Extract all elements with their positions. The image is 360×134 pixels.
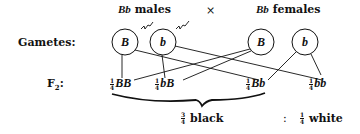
fraction: 14 <box>110 78 114 91</box>
offspring-bB: 14bB <box>155 77 174 91</box>
genotype: Bb <box>251 76 265 90</box>
squiggle-arrow-icon <box>141 22 153 29</box>
fraction-den: 4 <box>309 85 313 91</box>
white-ratio: 14 white <box>300 112 343 125</box>
cross-line <box>311 54 321 75</box>
ratio-separator: : <box>283 113 287 124</box>
fraction: 34 <box>181 112 185 125</box>
male-gamete-b: b <box>153 36 173 48</box>
genotype: bB <box>160 76 174 90</box>
squiggle-arrow-icon <box>176 21 189 29</box>
genotype: bb <box>314 76 326 90</box>
fraction: 14 <box>300 112 304 125</box>
offspring-BB: 14BB <box>110 77 131 91</box>
cross-line <box>162 55 165 78</box>
male-gamete-B: B <box>115 36 135 48</box>
genotype: BB <box>115 76 131 90</box>
cross-line <box>135 50 259 80</box>
males-parent-label: Bb males <box>118 4 171 15</box>
females-label: females <box>273 3 321 16</box>
males-label: males <box>135 3 171 16</box>
offspring-bb: 14bb <box>309 77 326 91</box>
fraction-den: 4 <box>300 119 304 125</box>
fraction: 14 <box>246 78 250 91</box>
females-parent-label: Bb females <box>256 4 321 15</box>
fraction: 14 <box>155 78 159 91</box>
f2-label-colon: : <box>60 77 64 90</box>
males-genotype: Bb <box>118 3 131 15</box>
fraction: 14 <box>309 78 313 91</box>
fraction-den: 4 <box>155 85 159 91</box>
black-label: black <box>190 112 223 125</box>
fraction-den: 4 <box>110 85 114 91</box>
brace <box>112 93 265 106</box>
f2-label-text: F <box>47 77 55 90</box>
white-label: white <box>309 112 343 125</box>
cross-symbol: × <box>206 5 215 16</box>
offspring-Bb: 14Bb <box>246 77 265 91</box>
cross-line <box>268 52 296 80</box>
gametes-label: Gametes: <box>18 37 76 48</box>
fraction-den: 4 <box>246 85 250 91</box>
females-genotype: Bb <box>256 3 269 15</box>
fraction-den: 4 <box>181 119 185 125</box>
female-gamete-B: B <box>251 36 271 48</box>
f2-label: F2: <box>47 78 64 91</box>
black-ratio: 34 black <box>181 112 223 125</box>
female-gamete-b: b <box>295 36 315 48</box>
